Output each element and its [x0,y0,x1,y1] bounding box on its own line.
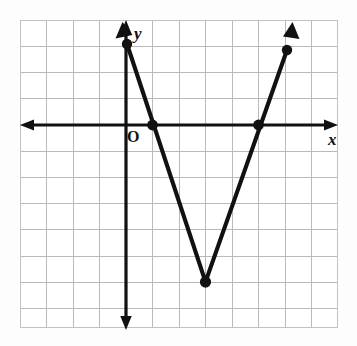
origin-label: O [127,129,139,145]
point-left-endpoint [122,39,132,49]
coordinate-plane-figure: y x O [0,0,357,346]
x-axis-label: x [328,131,337,148]
point-right-x-intercept [253,120,264,131]
point-right-endpoint [282,45,292,55]
point-vertex [200,276,211,287]
y-axis-label: y [134,25,142,42]
point-left-x-intercept [147,120,158,131]
graph-canvas [0,0,357,346]
